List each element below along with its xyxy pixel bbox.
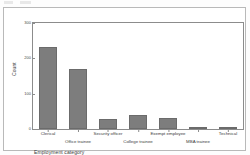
y-axis-title: Count: [11, 62, 17, 76]
y-axis-tick-200: 200: [24, 56, 33, 60]
top-edge-artifact-left: [4, 1, 13, 4]
x-axis-title: Employment category: [34, 149, 84, 155]
chart-screenshot: Count 300 200 100 0 ClericalOffice train…: [0, 0, 250, 155]
bar: [189, 127, 207, 129]
x-axis-label: Exempt employee: [150, 132, 185, 136]
x-axis-label: Security officer: [94, 132, 123, 136]
x-axis-label: Clerical: [41, 132, 56, 136]
top-edge-artifact-right: [20, 1, 31, 4]
x-axis-label: College trainee: [123, 140, 153, 144]
bar-series: [33, 23, 243, 129]
bar: [159, 118, 177, 129]
x-axis-label: Technical: [219, 132, 237, 136]
bar: [129, 115, 147, 129]
x-axis-label: MBA trainee: [186, 140, 210, 144]
bar: [39, 47, 57, 129]
bar: [219, 127, 237, 129]
y-axis-tick-300: 300: [24, 21, 33, 25]
y-axis-tick-100: 100: [24, 92, 33, 96]
x-axis-label: Office trainee: [65, 140, 91, 144]
bar: [99, 119, 117, 129]
bar: [69, 69, 87, 129]
x-axis-category-labels: ClericalOffice traineeSecurity officerCo…: [33, 131, 243, 149]
chart-output-frame: Count 300 200 100 0 ClericalOffice train…: [3, 7, 246, 151]
